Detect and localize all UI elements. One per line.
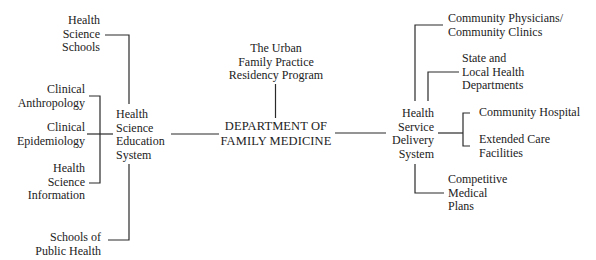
hub-health-science-education-system: Health Science Education System: [116, 108, 165, 162]
node-line: Service: [392, 121, 434, 135]
connector-competitive-medical: [415, 164, 444, 193]
node-line: Information: [28, 189, 85, 203]
connector-community-physicians: [415, 25, 443, 101]
node-schools-of-public-health: Schools of Public Health: [35, 231, 101, 258]
node-line: Health: [116, 108, 165, 122]
node-line: Science: [116, 122, 165, 136]
node-competitive-medical-plans: Competitive Medical Plans: [448, 173, 507, 214]
node-line: Extended Care: [479, 133, 550, 147]
node-line: Competitive: [448, 173, 507, 187]
node-urban-family-practice: The Urban Family Practice Residency Prog…: [216, 42, 336, 83]
node-line: Clinical: [17, 121, 85, 135]
node-line: Community Physicians/: [448, 12, 563, 26]
node-line: Science: [62, 28, 100, 42]
node-line: Facilities: [479, 147, 550, 161]
node-line: Schools of: [35, 231, 101, 245]
node-line: State and: [462, 52, 524, 66]
connector-left-bracket: [89, 96, 100, 183]
node-line: Clinical: [18, 83, 85, 97]
node-line: System: [392, 148, 434, 162]
connector-state-local-health: [428, 72, 459, 101]
node-health-science-schools: Health Science Schools: [62, 14, 100, 55]
node-state-local-health-departments: State and Local Health Departments: [462, 52, 524, 93]
center-line: FAMILY MEDICINE: [214, 134, 338, 149]
node-community-hospital: Community Hospital: [479, 106, 580, 120]
node-line: Family Practice: [216, 56, 336, 70]
node-line: Plans: [448, 200, 507, 214]
node-health-science-information: Health Science Information: [28, 162, 85, 203]
node-line: The Urban: [216, 42, 336, 56]
node-line: Epidemiology: [17, 135, 85, 149]
hub-health-service-delivery-system: Health Service Delivery System: [392, 107, 434, 161]
node-line: Health: [62, 14, 100, 28]
node-extended-care-facilities: Extended Care Facilities: [479, 133, 550, 160]
node-line: Anthropology: [18, 97, 85, 111]
node-line: Public Health: [35, 245, 101, 259]
center-node-department-of-family-medicine: DEPARTMENT OF FAMILY MEDICINE: [214, 119, 338, 149]
node-line: Residency Program: [216, 69, 336, 83]
node-line: Health: [392, 107, 434, 121]
node-line: Local Health: [462, 66, 524, 80]
node-community-physicians-clinics: Community Physicians/ Community Clinics: [448, 12, 563, 39]
node-line: Schools: [62, 41, 100, 55]
node-clinical-anthropology: Clinical Anthropology: [18, 83, 85, 110]
connector-schools-of-public-health: [108, 164, 129, 240]
center-line: DEPARTMENT OF: [214, 119, 338, 134]
node-line: Medical: [448, 187, 507, 201]
connector-right-bracket: [463, 113, 470, 146]
node-line: Departments: [462, 79, 524, 93]
connector-health-science-schools: [105, 35, 129, 104]
node-line: Science: [28, 176, 85, 190]
node-line: Community Hospital: [479, 106, 580, 120]
node-line: Health: [28, 162, 85, 176]
node-line: System: [116, 149, 165, 163]
node-line: Education: [116, 135, 165, 149]
node-line: Delivery: [392, 134, 434, 148]
node-clinical-epidemiology: Clinical Epidemiology: [17, 121, 85, 148]
node-line: Community Clinics: [448, 26, 563, 40]
